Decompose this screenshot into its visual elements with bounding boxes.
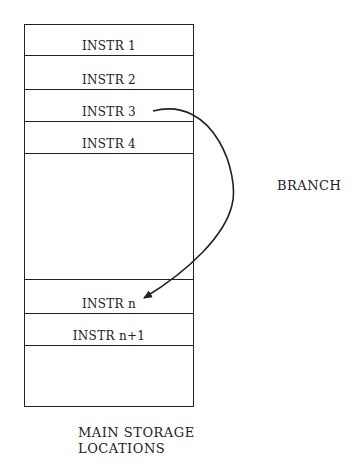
- caption-line-1: MAIN STORAGE: [78, 425, 195, 440]
- branch-arrow: [0, 0, 360, 472]
- branch-label: BRANCH: [277, 178, 341, 193]
- caption-line-2: LOCATIONS: [78, 441, 165, 456]
